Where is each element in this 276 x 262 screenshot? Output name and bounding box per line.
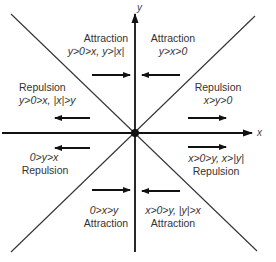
x-axis-label: x	[256, 127, 263, 138]
region-type-label: Repulsion	[22, 164, 69, 176]
region-condition: y>0>x, |x|>y	[18, 94, 76, 106]
region-condition: x>0>y, x>|y|	[187, 152, 244, 164]
region-condition: y>x>0	[158, 45, 188, 57]
region-condition: x>0>y, |y|>x	[144, 204, 201, 216]
region-condition: y>0>x, y>|x|	[67, 45, 125, 57]
region-type-label: Repulsion	[19, 81, 66, 93]
region-type-label: Attraction	[151, 217, 196, 229]
region-type-label: Attraction	[151, 32, 196, 44]
region-type-label: Repulsion	[195, 81, 242, 93]
region-type-label: Attraction	[84, 217, 129, 229]
origin-point	[131, 129, 139, 137]
region-condition: 0>x>y	[90, 204, 119, 216]
region-type-label: Attraction	[84, 32, 129, 44]
region-condition: 0>y>x	[30, 151, 59, 163]
attraction-repulsion-diagram: x y Attraction y>0>x, y>|x| Repulsion y>…	[0, 0, 276, 262]
region-type-label: Repulsion	[193, 165, 240, 177]
y-axis-label: y	[136, 2, 143, 13]
region-condition: x>y>0	[203, 94, 233, 106]
